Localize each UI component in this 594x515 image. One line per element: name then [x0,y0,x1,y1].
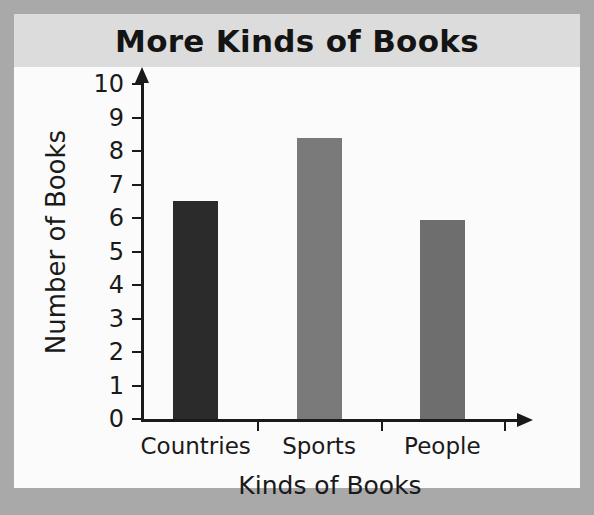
chart-card: More Kinds of Books Number of Books 0123… [14,14,580,488]
x-axis-tick [257,421,259,431]
plot-area: Number of Books 012345678910 CountriesSp… [14,67,580,488]
x-axis-line [141,419,519,422]
x-axis-category-label: People [404,433,480,459]
bars-layer [14,67,580,419]
x-axis-title: Kinds of Books [141,471,519,500]
bar-sports [297,138,342,419]
bar-people [420,220,465,419]
chart-title: More Kinds of Books [115,23,479,59]
x-axis-tick [381,421,383,431]
x-axis-category-label: Countries [141,433,251,459]
x-axis-tick [504,421,506,431]
bar-countries [173,201,218,419]
chart-page: More Kinds of Books Number of Books 0123… [0,0,594,515]
x-axis-category-label: Sports [282,433,356,459]
title-band: More Kinds of Books [14,14,580,67]
